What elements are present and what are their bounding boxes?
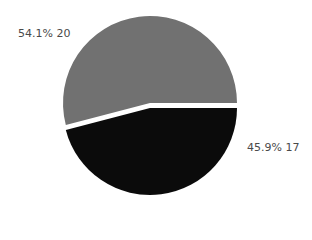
slice-label-gray: 54.1% 20: [18, 27, 70, 40]
slice-label-black: 45.9% 17: [247, 141, 299, 154]
pie-slice-black: [66, 108, 237, 195]
